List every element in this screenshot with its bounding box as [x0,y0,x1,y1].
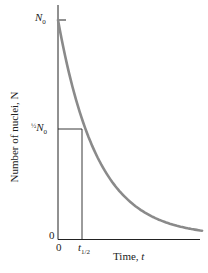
decay-chart [0,0,208,273]
x-axis-label-var: t [141,250,144,262]
y-axis-label: Number of nuclei, N [9,91,20,182]
x-axis-label: Time, t [113,251,144,262]
y-tick-n0: N0 [35,12,46,26]
y-tick-zero: 0 [49,230,55,241]
x-tick-half-life: t1/2 [78,242,90,256]
n0-subscript: 0 [42,18,46,26]
x-axis-label-text: Time, [113,250,141,262]
x-tick-zero: 0 [56,242,62,253]
half-n-symbol: N [36,121,43,133]
decay-curve [58,20,202,231]
t-subscript: 1/2 [81,248,90,256]
half-n-subscript: 0 [44,128,48,136]
y-tick-half-n0: ½N0 [31,122,47,136]
